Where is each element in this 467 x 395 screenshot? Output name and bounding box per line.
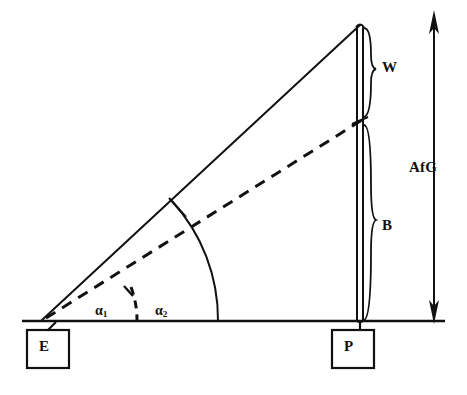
alpha-2-subscript: 2 [163, 309, 168, 319]
w-brace [364, 28, 376, 117]
b-brace [364, 125, 376, 320]
hypotenuse-solid [42, 25, 360, 320]
arc-alpha1-dashed [131, 287, 137, 321]
arc-alpha2-solid [172, 201, 218, 321]
b-brace-path [364, 125, 376, 320]
label-alpha-1: α1 [95, 304, 107, 319]
alpha-2-symbol: α [155, 303, 163, 318]
w-brace-path [364, 28, 376, 117]
alpha-1-symbol: α [95, 303, 103, 318]
label-w: W [382, 60, 397, 75]
chord-dashed [46, 120, 362, 318]
arc-alpha2-top-tick [169, 198, 186, 217]
label-e: E [39, 339, 49, 354]
label-afg: AfG [409, 160, 437, 175]
alpha-1-subscript: 1 [103, 309, 108, 319]
label-p: P [344, 339, 353, 354]
box-e-connector [48, 322, 56, 330]
label-b: B [382, 218, 392, 233]
vertical-double-line [356, 25, 364, 323]
figure-canvas: W B AfG E P α1 α2 [0, 0, 467, 395]
label-alpha-2: α2 [155, 304, 167, 319]
